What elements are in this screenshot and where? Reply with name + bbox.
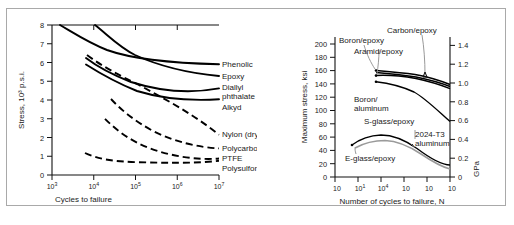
figure-frame: 0 1 2 3 4 5 6 7 8 <box>6 8 506 206</box>
ytick-2: 2 <box>40 134 44 143</box>
ytick-gpa-10: 1.0 <box>458 79 468 88</box>
label-ptfe: PTFE <box>222 154 242 163</box>
curve-epoxy <box>95 25 219 76</box>
ytick-ksi-60: 60 <box>319 133 327 142</box>
ytick-ksi-140: 140 <box>315 80 327 89</box>
ytick-ksi-40: 40 <box>319 146 327 155</box>
label-nylon-dry: Nylon (dry) <box>222 130 257 139</box>
anno-2024-t3-2: aluminum <box>415 139 450 148</box>
xtick-1e3: 103 <box>47 181 58 190</box>
ytick-gpa-08: 0.8 <box>458 98 468 107</box>
anno-aramid-epoxy: Aramid/epoxy <box>354 47 403 56</box>
ytick-gpa-0: 0 <box>458 173 462 182</box>
right-y-tick-labels-right: 0 0.2 0.4 0.6 0.8 1.0 1.2 1.4 <box>458 41 468 182</box>
anno-boron-aluminum-1: Boron/ <box>354 95 378 104</box>
chart-plastics-fatigue: 0 1 2 3 4 5 6 7 8 <box>7 9 257 205</box>
ytick-8: 8 <box>40 21 44 30</box>
ytick-ksi-200: 200 <box>315 40 327 49</box>
anno-boron-aluminum-2: aluminum <box>354 104 389 113</box>
right-y-tick-labels-left: 0 20 40 60 80 100 120 140 160 180 200 <box>315 40 327 182</box>
label-polycarbonate: Polycarbonate <box>222 144 257 153</box>
xtick-r-1: 10 <box>333 185 341 192</box>
ytick-gpa-06: 0.6 <box>458 116 468 125</box>
xtick-r-2: 101 <box>355 183 366 192</box>
ytick-ksi-120: 120 <box>315 93 327 102</box>
ytick-gpa-04: 0.4 <box>458 135 468 144</box>
right-x-tick-labels: 10 101 104 10 10 10 <box>333 183 456 192</box>
ytick-ksi-0: 0 <box>323 173 327 182</box>
right-x-axis-title: Number of cycles to failure, N <box>340 197 445 206</box>
ytick-ksi-80: 80 <box>319 120 327 129</box>
curve-ptfe <box>105 119 219 159</box>
ytick-ksi-20: 20 <box>319 160 327 169</box>
chart-plastics-svg: 0 1 2 3 4 5 6 7 8 <box>7 9 257 207</box>
left-curve-labels: Phenolic Epoxy Diallyl phthalate Alkyd N… <box>222 60 257 173</box>
ytick-1: 1 <box>40 152 44 161</box>
xtick-r-3: 104 <box>378 183 389 192</box>
curve-phenolic <box>60 25 219 64</box>
chart-composites-svg: 0 20 40 60 80 100 120 140 160 180 200 <box>257 9 507 207</box>
anno-2024-t3-1: 2024-T3 <box>415 130 445 139</box>
xtick-r-6: 10 <box>448 185 456 192</box>
right-y-ticks-left <box>330 44 335 177</box>
xtick-1e4: 104 <box>88 181 99 190</box>
ytick-gpa-14: 1.4 <box>458 41 468 50</box>
anno-e-glass-epoxy: E-glass/epoxy <box>345 154 395 163</box>
ytick-6: 6 <box>40 59 44 68</box>
right-y-axis-title: Maximum stress, ksi <box>300 71 309 144</box>
anno-s-glass-epoxy: S-glass/epoxy <box>364 117 414 126</box>
label-epoxy: Epoxy <box>222 72 244 81</box>
xtick-1e6: 106 <box>172 181 183 190</box>
left-x-ticks <box>52 25 219 180</box>
anno-carbon-epoxy: Carbon/epoxy <box>387 26 437 35</box>
ytick-4: 4 <box>40 96 44 105</box>
right-x-ticks <box>335 177 450 182</box>
ytick-gpa-02: 0.2 <box>458 154 468 163</box>
left-x-axis-title: Cycles to failure <box>55 195 112 204</box>
ytick-ksi-180: 180 <box>315 53 327 62</box>
anno-boron-epoxy: Boron/epoxy <box>339 36 384 45</box>
label-alkyd: Alkyd <box>222 103 242 112</box>
left-y-axis-title: Stress, 10³ p.s.i. <box>17 71 26 129</box>
label-diallyl: Diallyl <box>222 83 244 92</box>
chart-composites-fatigue: 0 20 40 60 80 100 120 140 160 180 200 <box>257 9 507 205</box>
leader-carbon-epoxy <box>422 35 425 75</box>
right-y-ticks-right <box>450 45 455 177</box>
xtick-r-4: 10 <box>402 185 410 192</box>
ytick-5: 5 <box>40 77 44 86</box>
left-y-ticks <box>47 25 52 175</box>
right-y-axis-title-gpa: GPa <box>472 160 481 177</box>
curve-boron-aluminum <box>376 82 450 122</box>
ytick-7: 7 <box>40 40 44 49</box>
ytick-ksi-100: 100 <box>315 106 327 115</box>
ytick-ksi-160: 160 <box>315 66 327 75</box>
ytick-0: 0 <box>40 171 44 180</box>
left-x-tick-labels: 103 104 105 106 107 <box>47 181 225 190</box>
xtick-1e7: 107 <box>214 181 225 190</box>
xtick-1e5: 105 <box>130 181 141 190</box>
label-phthalate: phthalate <box>222 92 255 101</box>
left-y-tick-labels: 0 1 2 3 4 5 6 7 8 <box>40 21 44 180</box>
ytick-3: 3 <box>40 115 44 124</box>
label-polysulfone: Polysulfone <box>222 164 257 173</box>
xtick-r-5: 10 <box>425 185 433 192</box>
label-phenolic: Phenolic <box>222 60 253 69</box>
ytick-gpa-12: 1.2 <box>458 60 468 69</box>
